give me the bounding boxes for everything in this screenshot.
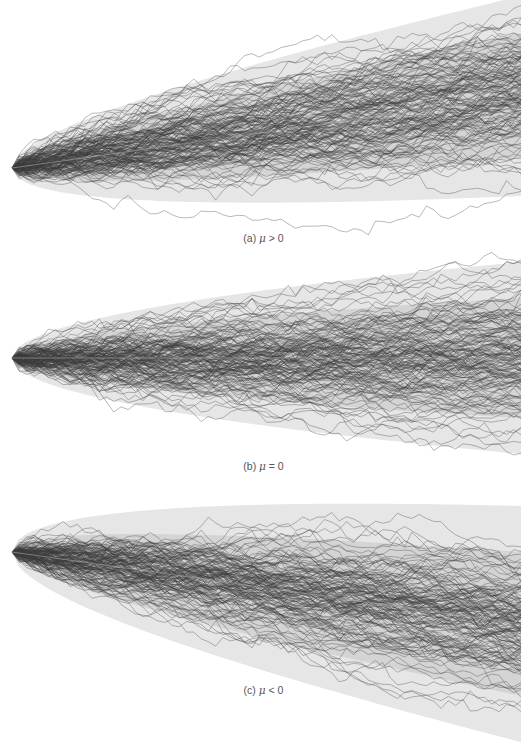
panel-b-zero-drift	[12, 252, 521, 455]
caption-b: (b) μ = 0	[0, 460, 527, 472]
caption-b-relation: = 0	[269, 460, 284, 472]
caption-c-relation: < 0	[269, 684, 284, 696]
caption-b-prefix: (b)	[243, 460, 256, 472]
panel-c-negative-drift	[12, 504, 521, 742]
figure-canvas	[0, 0, 527, 751]
caption-c-prefix: (c)	[244, 684, 256, 696]
caption-a-relation: > 0	[269, 232, 284, 244]
caption-a-mu-symbol: μ	[259, 232, 266, 244]
panel-a-positive-drift	[12, 0, 521, 235]
caption-a: (a) μ > 0	[0, 232, 527, 244]
caption-c: (c) μ < 0	[0, 684, 527, 696]
caption-c-mu-symbol: μ	[259, 684, 266, 696]
caption-a-prefix: (a)	[243, 232, 256, 244]
caption-b-mu-symbol: μ	[259, 460, 266, 472]
